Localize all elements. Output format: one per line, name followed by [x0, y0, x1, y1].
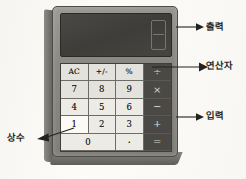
calculator-face: AC +/- % ÷ 7 8 9 × 4 5 6 − 1 2 3 +	[52, 6, 178, 157]
key-divide[interactable]: ÷	[144, 64, 172, 81]
key-7[interactable]: 7	[61, 81, 89, 98]
display-digit-zero	[151, 20, 166, 50]
key-0[interactable]: 0	[61, 134, 116, 151]
key-percent[interactable]: %	[116, 64, 144, 81]
annotation-operator: 연산자	[206, 58, 233, 73]
key-minus[interactable]: −	[144, 99, 172, 116]
annotation-input: 입력	[206, 108, 224, 123]
key-ac[interactable]: AC	[61, 64, 89, 81]
key-2[interactable]: 2	[89, 116, 117, 133]
key-multiply[interactable]: ×	[144, 81, 172, 98]
key-4[interactable]: 4	[61, 99, 89, 116]
key-plus[interactable]: +	[144, 116, 172, 133]
annotation-output: 출력	[206, 19, 224, 34]
key-6[interactable]: 6	[116, 99, 144, 116]
key-5[interactable]: 5	[89, 99, 117, 116]
calculator: AC +/- % ÷ 7 8 9 × 4 5 6 − 1 2 3 +	[44, 4, 181, 170]
key-decimal[interactable]: .	[116, 134, 144, 151]
calculator-display	[60, 13, 172, 57]
diagram-scene: AC +/- % ÷ 7 8 9 × 4 5 6 − 1 2 3 +	[0, 0, 246, 179]
key-1[interactable]: 1	[61, 116, 89, 133]
key-sign[interactable]: +/-	[89, 64, 117, 81]
key-3[interactable]: 3	[116, 116, 144, 133]
annotation-constant: 상수	[7, 130, 25, 145]
key-8[interactable]: 8	[89, 81, 117, 98]
calculator-keypad: AC +/- % ÷ 7 8 9 × 4 5 6 − 1 2 3 +	[60, 63, 172, 152]
arrow-input	[176, 110, 210, 124]
key-9[interactable]: 9	[116, 81, 144, 98]
key-equals[interactable]: =	[144, 134, 172, 151]
